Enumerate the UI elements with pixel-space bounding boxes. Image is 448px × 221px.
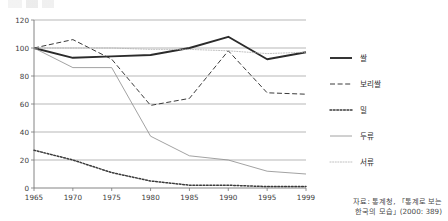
- x-tick-label: 1975: [103, 193, 121, 202]
- gridline-group: [34, 20, 306, 188]
- legend-label-4: 서류: [360, 158, 374, 167]
- legend-label-2: 밀: [360, 106, 367, 115]
- legend-label-0: 쌀: [360, 54, 367, 63]
- source-line-2: 한국의 모습」(2000: 389): [355, 206, 442, 216]
- x-tick-label: 1965: [25, 193, 43, 202]
- y-tick-label: 80: [20, 72, 30, 81]
- x-tick-label: 1985: [180, 193, 198, 202]
- series-line-2: [34, 150, 306, 186]
- y-tick-label: 20: [20, 156, 30, 165]
- x-tick-label: 1999: [297, 193, 316, 202]
- legend-label-3: 두류: [360, 132, 374, 141]
- y-axis-labels: 020406080100120: [15, 16, 29, 193]
- line-chart: 020406080100120 196519701975198019851990…: [0, 0, 448, 221]
- x-tick-label: 1995: [258, 193, 276, 202]
- series-group: [34, 37, 306, 187]
- y-tick-label: 100: [15, 44, 29, 53]
- y-tick-label: 0: [24, 184, 29, 193]
- x-tick-label: 1990: [219, 193, 238, 202]
- x-axis-labels: 19651970197519801985199019951999: [25, 193, 316, 202]
- y-tick-label: 40: [20, 128, 30, 137]
- y-tick-label: 60: [20, 100, 30, 109]
- legend-label-1: 보리쌀: [360, 80, 381, 89]
- y-tick-label: 120: [15, 16, 29, 25]
- x-tick-label: 1980: [141, 193, 160, 202]
- figure-root: 020406080100120 196519701975198019851990…: [0, 0, 448, 221]
- chart-legend: 쌀보리쌀밀두류서류: [330, 54, 381, 167]
- source-line-1: 자료: 통계청, 「통계로 보는: [353, 196, 442, 206]
- x-tick-label: 1970: [64, 193, 83, 202]
- series-line-3: [34, 48, 306, 174]
